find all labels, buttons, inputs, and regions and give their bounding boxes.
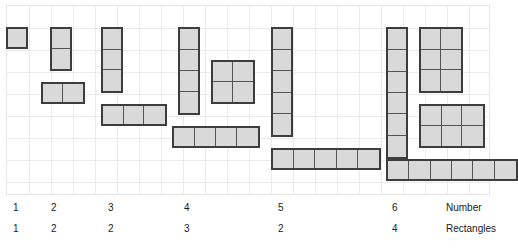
unit-square <box>388 93 406 114</box>
rectangle-count-for-6: 4 <box>392 223 398 235</box>
rectangle-1x3 <box>101 27 123 93</box>
rectangle-count-for-5: 2 <box>278 223 284 235</box>
rectangle-3x1 <box>101 104 167 126</box>
unit-square <box>315 150 336 168</box>
rectangle-3x2 <box>419 104 485 148</box>
number-value-6: 6 <box>392 202 398 214</box>
rectangle-2x3 <box>419 27 463 93</box>
unit-square <box>388 114 406 135</box>
unit-square <box>273 71 291 92</box>
unit-square <box>421 106 442 126</box>
unit-square <box>441 70 461 91</box>
unit-square <box>388 50 406 71</box>
unit-square <box>421 50 441 71</box>
unit-square <box>233 82 253 102</box>
unit-square <box>441 50 461 71</box>
unit-square <box>273 93 291 114</box>
number-value-1: 1 <box>13 202 19 214</box>
unit-square <box>388 72 406 93</box>
unit-square <box>431 161 452 179</box>
rectangle-count-for-1: 1 <box>13 223 19 235</box>
rectangle-5x1 <box>271 148 381 170</box>
unit-square <box>388 136 406 157</box>
unit-square <box>462 106 483 126</box>
unit-square <box>8 29 26 47</box>
unit-square <box>294 150 315 168</box>
unit-square <box>273 50 291 71</box>
unit-square <box>103 29 121 50</box>
unit-square <box>273 29 291 50</box>
unit-square <box>180 92 198 113</box>
unit-square <box>180 29 198 50</box>
unit-square <box>442 126 463 146</box>
unit-square <box>273 114 291 135</box>
unit-square <box>144 106 165 124</box>
unit-square <box>388 29 406 50</box>
unit-square <box>213 82 233 102</box>
unit-square <box>409 161 430 179</box>
unit-square <box>442 106 463 126</box>
unit-square <box>52 49 70 69</box>
rectangle-2x1 <box>41 82 85 104</box>
unit-square <box>103 70 121 91</box>
unit-square <box>103 50 121 71</box>
rectangle-count-for-3: 2 <box>108 223 114 235</box>
unit-square <box>421 126 442 146</box>
unit-square <box>337 150 358 168</box>
rectangle-6x1 <box>386 159 518 181</box>
unit-square <box>421 70 441 91</box>
unit-square <box>195 128 216 146</box>
rectangle-count-for-4: 3 <box>184 223 190 235</box>
unit-square <box>124 106 145 124</box>
unit-square <box>52 29 70 49</box>
unit-square <box>63 84 83 102</box>
number-value-4: 4 <box>184 202 190 214</box>
rectangle-4x1 <box>172 126 260 148</box>
unit-square <box>43 84 63 102</box>
unit-square <box>452 161 473 179</box>
rectangle-2x2 <box>211 60 255 104</box>
number-caption: Number <box>446 202 482 214</box>
rectangle-1x4 <box>178 27 200 115</box>
unit-square <box>495 161 516 179</box>
unit-square <box>103 106 124 124</box>
unit-square <box>358 150 379 168</box>
unit-square <box>473 161 494 179</box>
unit-square <box>237 128 258 146</box>
unit-square <box>421 29 441 50</box>
rectangle-count-for-2: 2 <box>51 223 57 235</box>
unit-square <box>180 50 198 71</box>
rectangle-1x2 <box>50 27 72 71</box>
number-value-3: 3 <box>108 202 114 214</box>
rectangle-1x6 <box>386 27 408 159</box>
unit-square <box>388 161 409 179</box>
unit-square <box>462 126 483 146</box>
unit-square <box>216 128 237 146</box>
unit-square <box>233 62 253 82</box>
number-value-5: 5 <box>278 202 284 214</box>
unit-square <box>441 29 461 50</box>
rectangles-caption: Rectangles <box>446 223 496 235</box>
unit-square <box>174 128 195 146</box>
unit-square <box>273 150 294 168</box>
rectangle-1x1 <box>6 27 28 49</box>
unit-square <box>213 62 233 82</box>
unit-square <box>180 71 198 92</box>
rectangle-1x5 <box>271 27 293 137</box>
number-value-2: 2 <box>51 202 57 214</box>
